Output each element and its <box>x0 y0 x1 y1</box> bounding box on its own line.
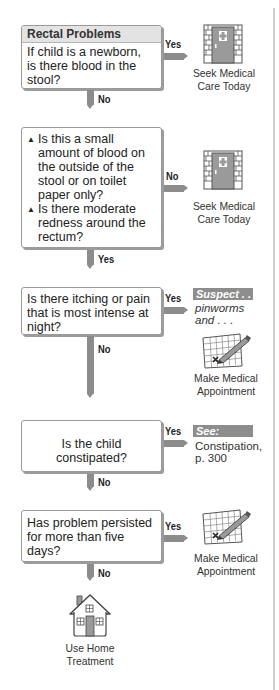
no-label: No <box>98 476 110 488</box>
question-text: If child is a newborn, <box>27 45 156 59</box>
question-box-small-blood-redness: ▲ Is this a small amount of blood on the… <box>21 127 162 248</box>
outcome-text: Make Medical <box>190 372 262 385</box>
question-text: Is the child constipated? <box>27 437 156 465</box>
no-label: No <box>98 567 110 579</box>
make-appointment-outcome: Make Medical Appointment <box>190 372 262 398</box>
question-box-persisted-five-days: Has problem persisted for more than five… <box>21 510 162 562</box>
question-text: amount of blood on <box>38 146 145 160</box>
question-text: Is there moderate <box>38 202 146 216</box>
no-label: No <box>98 343 110 355</box>
outcome-text: Appointment <box>190 565 262 578</box>
question-text: for more than five <box>27 530 156 544</box>
yes-arrow <box>87 250 94 265</box>
hospital-door-icon <box>203 24 243 64</box>
bullet-item: ▲ Is there moderate redness around the r… <box>27 202 156 244</box>
outcome-text: Care Today <box>192 213 257 226</box>
question-text: is there blood in the <box>27 59 156 73</box>
suspect-line: pinworms <box>195 302 244 314</box>
suspect-text: pinworms and . . . <box>195 302 244 326</box>
question-text: stool? <box>27 73 156 87</box>
yes-label: Yes <box>98 253 114 265</box>
see-page-number: p. 300 <box>195 452 262 464</box>
question-text: days? <box>27 544 156 558</box>
yes-arrow <box>164 440 184 447</box>
no-arrow <box>87 474 94 487</box>
question-text: rectum? <box>38 230 146 244</box>
yes-label: Yes <box>165 292 181 304</box>
yes-label: Yes <box>165 425 181 437</box>
seek-medical-care-outcome: Seek Medical Care Today <box>192 200 257 226</box>
yes-label: Yes <box>165 520 181 532</box>
suspect-tag: Suspect . . . <box>193 288 253 300</box>
no-label: No <box>98 93 110 105</box>
no-label: No <box>166 170 178 182</box>
question-box-constipated: Is the child constipated? <box>21 420 162 472</box>
triangle-bullet-icon: ▲ <box>27 202 38 244</box>
question-text: Has problem persisted <box>27 516 156 530</box>
calendar-pencil-icon <box>200 508 252 546</box>
triangle-bullet-icon: ▲ <box>27 132 38 202</box>
yes-arrow <box>164 53 184 60</box>
outcome-text: Treatment <box>59 655 120 668</box>
outcome-text: Make Medical <box>190 552 262 565</box>
question-text: the outside of the <box>38 160 145 174</box>
outcome-text: Seek Medical <box>192 200 257 213</box>
no-arrow <box>164 185 184 192</box>
question-text: paper only? <box>38 188 145 202</box>
see-tag: See: <box>193 425 253 437</box>
suspect-line: and . . . <box>195 314 244 326</box>
question-text: that is most intense at <box>27 306 156 320</box>
yes-arrow <box>164 535 184 542</box>
no-arrow <box>87 564 94 577</box>
outcome-text: Care Today <box>192 80 257 93</box>
see-reference[interactable]: Constipation, p. 300 <box>195 440 262 464</box>
yes-label: Yes <box>165 38 181 50</box>
house-icon <box>68 592 112 638</box>
outcome-text: Seek Medical <box>192 67 257 80</box>
question-text: Is this a small <box>38 132 145 146</box>
question-text: Is there itching or pain <box>27 292 156 306</box>
see-reference-link[interactable]: Constipation, <box>195 440 262 452</box>
seek-medical-care-outcome: Seek Medical Care Today <box>192 67 257 93</box>
hospital-door-icon <box>203 150 243 190</box>
outcome-text: Use Home <box>59 642 120 655</box>
make-appointment-outcome: Make Medical Appointment <box>190 552 262 578</box>
use-home-treatment-outcome: Use Home Treatment <box>59 642 120 668</box>
no-arrow <box>87 90 94 105</box>
question-box-itching-pain: Is there itching or pain that is most in… <box>21 287 162 335</box>
yes-arrow <box>164 307 184 314</box>
bullet-item: ▲ Is this a small amount of blood on the… <box>27 132 156 202</box>
question-text: night? <box>27 320 156 334</box>
flowchart-title: Rectal Problems <box>22 26 161 43</box>
question-box-newborn-blood: Rectal Problems If child is a newborn, i… <box>21 25 162 89</box>
no-arrow <box>87 336 94 394</box>
question-text: stool or on toilet <box>38 174 145 188</box>
calendar-pencil-icon <box>200 332 252 370</box>
question-text: redness around the <box>38 216 146 230</box>
page-right-rule <box>273 8 275 690</box>
outcome-text: Appointment <box>190 385 262 398</box>
